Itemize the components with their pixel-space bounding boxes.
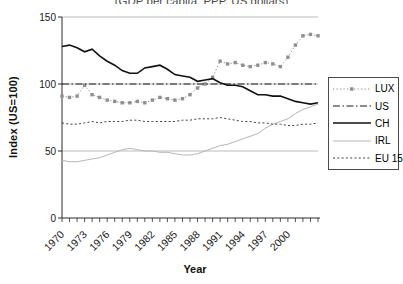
legend-label: LUX <box>375 83 394 94</box>
marker-LUX <box>121 101 124 104</box>
legend-item-us: US <box>332 98 398 114</box>
x-tick-label: 1982 <box>132 228 157 253</box>
marker-LUX <box>143 101 146 104</box>
legend-label: CH <box>375 118 389 129</box>
marker-LUX <box>271 62 274 65</box>
series-IRL <box>62 104 318 162</box>
marker-LUX <box>98 96 101 99</box>
legend: LUXUSCHIRLEU 15 <box>328 77 399 170</box>
y-tick-label: 100 <box>39 79 56 90</box>
marker-LUX <box>166 97 169 100</box>
marker-LUX <box>218 60 221 63</box>
chart-window: (GDP per capita, PPP, US dollars) Index … <box>0 0 403 284</box>
legend-label: US <box>375 101 389 112</box>
legend-item-lux: LUX <box>332 81 398 97</box>
x-tick-label: 1991 <box>200 228 225 253</box>
x-tick-label: 1979 <box>109 228 134 253</box>
marker-LUX <box>286 56 289 59</box>
x-tick-label: 1997 <box>245 228 270 253</box>
x-tick-label: 1976 <box>87 228 112 253</box>
series-LUX <box>62 34 318 102</box>
x-tick-label: 2000 <box>267 228 292 253</box>
marker-LUX <box>241 64 244 67</box>
marker-LUX <box>256 64 259 67</box>
legend-item-eu15: EU 15 <box>332 150 398 166</box>
marker-LUX <box>75 94 78 97</box>
x-tick-label: 1985 <box>154 228 179 253</box>
legend-label: IRL <box>375 135 391 146</box>
legend-item-ch: CH <box>332 115 398 131</box>
marker-LUX <box>226 62 229 65</box>
x-tick-label: 1994 <box>222 228 247 253</box>
legend-line-icon <box>332 153 372 163</box>
marker-LUX <box>234 61 237 64</box>
legend-label: EU 15 <box>375 153 403 164</box>
legend-item-irl: IRL <box>332 133 398 149</box>
marker-LUX <box>173 98 176 101</box>
y-tick-label: 50 <box>45 146 57 157</box>
x-axis-title: Year <box>183 263 206 275</box>
marker-LUX <box>60 94 63 97</box>
marker-LUX <box>113 100 116 103</box>
marker-LUX <box>181 97 184 100</box>
legend-line-icon <box>332 101 372 111</box>
marker-LUX <box>301 34 304 37</box>
marker-LUX <box>316 34 319 37</box>
legend-line-icon <box>332 84 372 94</box>
marker-LUX <box>249 65 252 68</box>
x-tick-label: 1970 <box>41 228 66 253</box>
x-tick-label: 1973 <box>64 228 89 253</box>
marker-LUX <box>188 93 191 96</box>
y-tick-label: 0 <box>50 213 56 224</box>
marker-LUX <box>106 98 109 101</box>
marker-LUX <box>151 98 154 101</box>
marker-LUX <box>264 61 267 64</box>
marker-LUX <box>294 43 297 46</box>
marker-LUX <box>158 96 161 99</box>
marker-LUX <box>196 86 199 89</box>
marker-LUX <box>68 96 71 99</box>
marker-LUX <box>136 100 139 103</box>
marker-LUX <box>90 93 93 96</box>
marker-LUX <box>128 101 131 104</box>
legend-line-icon <box>332 136 372 146</box>
x-tick-label: 1988 <box>177 228 202 253</box>
marker-LUX <box>279 65 282 68</box>
y-tick-label: 150 <box>39 12 56 23</box>
legend-line-icon <box>332 118 372 128</box>
marker-LUX <box>309 33 312 36</box>
